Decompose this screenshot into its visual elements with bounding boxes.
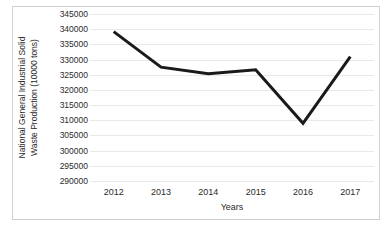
line-series-svg [90,14,374,181]
x-axis-tick-label: 2016 [280,186,326,198]
x-axis-tick-label: 2014 [185,186,231,198]
y-axis-tick-label: 305000 [44,131,88,140]
y-axis-tick-label: 345000 [44,10,88,19]
x-axis-tick-label: 2012 [91,186,137,198]
data-line [114,32,351,124]
gridline [90,181,374,182]
y-axis-tick-labels: 2900002950003000003050003100003150003200… [44,14,88,181]
y-axis-tick-label: 300000 [44,146,88,155]
y-axis-tick-label: 290000 [44,177,88,186]
y-axis-tick-label: 330000 [44,55,88,64]
y-axis-tick-label: 320000 [44,85,88,94]
y-axis-title-line-1: National General Industrial Solid [18,36,30,158]
plot-area [90,14,374,181]
y-axis-tick-label: 340000 [44,25,88,34]
y-axis-tick-label: 335000 [44,40,88,49]
y-axis-tick-label: 295000 [44,161,88,170]
chart-figure: National General Industrial Solid Waste … [0,0,392,231]
y-axis-tick-label: 310000 [44,116,88,125]
x-axis-tick-labels: 201220132014201520162017 [90,186,374,200]
y-axis-title-line-2: Waste Production (10000 tons) [29,36,41,158]
x-axis-tick-label: 2015 [233,186,279,198]
y-axis-tick-label: 325000 [44,70,88,79]
x-axis-tick-label: 2017 [327,186,373,198]
x-axis-tick-label: 2013 [138,186,184,198]
x-axis-title: Years [90,201,374,213]
y-axis-title: National General Industrial Solid Waste … [14,6,44,188]
y-axis-tick-label: 315000 [44,101,88,110]
